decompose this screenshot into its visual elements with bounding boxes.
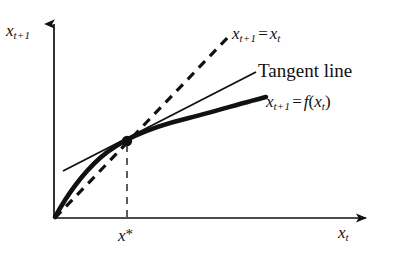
tangent-line xyxy=(63,72,256,171)
x-axis-label-subscript: t xyxy=(346,231,349,243)
fixed-point-marker xyxy=(122,136,132,146)
diagonal-identity-line xyxy=(55,33,232,218)
curve-label-arg-var: x xyxy=(314,92,322,111)
diagonal-label-equals: = xyxy=(256,24,270,43)
diagonal-label-rhs-subscript: t xyxy=(277,32,280,44)
curve-label-lhs-var: x xyxy=(266,92,274,111)
fixed-point-star-glyph: * xyxy=(126,226,134,242)
y-axis-label: xt+1 xyxy=(6,22,30,41)
curve-label-equals: = xyxy=(290,92,304,111)
fixed-point-tick-var: x xyxy=(118,226,126,245)
diagonal-label-lhs-var: x xyxy=(232,24,240,43)
tangent-line-label: Tangent line xyxy=(258,61,352,80)
diagonal-line-label: xt+1=xt xyxy=(232,25,281,44)
curve-label-lhs-subscript: t+1 xyxy=(274,100,291,112)
plot-canvas xyxy=(0,0,395,265)
figure-fixed-point-diagram: xt+1 xt x* xt+1=xt Tangent line xt+1=f(x… xyxy=(0,0,395,265)
y-axis-label-var: x xyxy=(6,21,14,40)
x-axis-label: xt xyxy=(338,224,349,243)
map-function-curve xyxy=(55,97,266,217)
fixed-point-tick-label: x* xyxy=(118,227,133,244)
map-function-label: xt+1=f(xt) xyxy=(266,93,331,112)
y-axis-label-subscript: t+1 xyxy=(14,29,31,41)
curve-label-close-paren: ) xyxy=(325,92,331,111)
x-axis-label-var: x xyxy=(338,223,346,242)
diagonal-label-lhs-subscript: t+1 xyxy=(240,32,257,44)
